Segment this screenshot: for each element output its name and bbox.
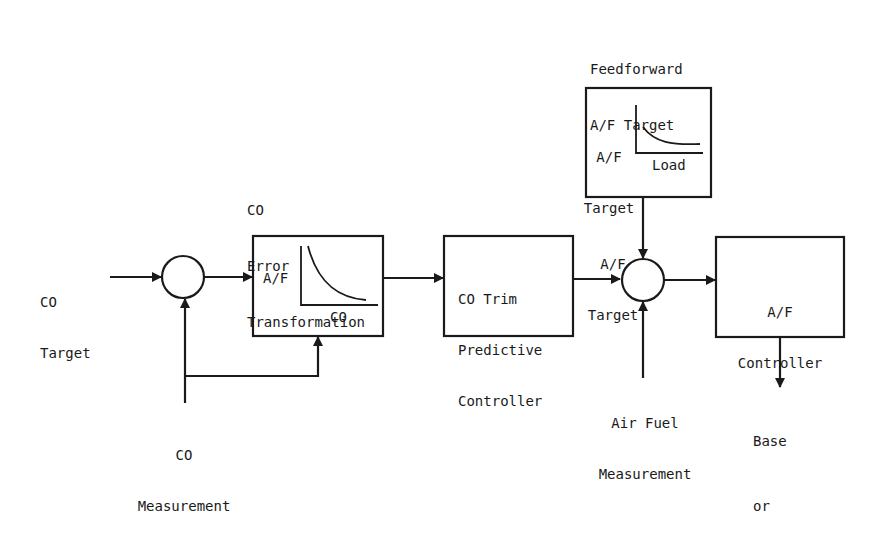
trim-line1: CO Trim bbox=[458, 291, 542, 308]
output-line2: or bbox=[753, 496, 795, 518]
error-transformation-title: CO Error Transformation bbox=[247, 168, 365, 348]
afc-line2: Controller bbox=[716, 355, 844, 372]
co-target-line1: CO bbox=[40, 294, 91, 311]
output-label: Base or Swing Fuel DDC Loops bbox=[753, 388, 795, 537]
trim-line3: Controller bbox=[458, 393, 542, 410]
co-measurement-label: CO Measurement bbox=[128, 413, 240, 532]
output-line1: Base bbox=[753, 431, 795, 453]
co-measurement-line2: Measurement bbox=[128, 498, 240, 515]
error-box-xaxis-label: CO bbox=[330, 309, 347, 326]
co-trim-controller-label: CO Trim Predictive Controller bbox=[458, 257, 542, 427]
co-summing-junction bbox=[162, 256, 204, 298]
ff-yaxis-line1: A/F bbox=[578, 149, 640, 166]
error-title-line3: Transformation bbox=[247, 314, 365, 331]
error-title-line1: CO bbox=[247, 202, 365, 219]
ff-box-xaxis-label: Load bbox=[652, 157, 686, 174]
af-controller-label: A/F Controller bbox=[716, 270, 844, 389]
error-box-yaxis-label: A/F bbox=[263, 270, 288, 287]
trim-line2: Predictive bbox=[458, 342, 542, 359]
af-target-line1: A/F bbox=[585, 256, 641, 273]
ff-box-yaxis-label: A/F Target bbox=[578, 115, 640, 234]
co-target-line2: Target bbox=[40, 345, 91, 362]
afm-line1: Air Fuel bbox=[582, 415, 708, 432]
ff-title-line1: Feedforward bbox=[590, 61, 683, 78]
co-target-label: CO Target bbox=[40, 260, 91, 379]
co-measurement-line1: CO bbox=[128, 447, 240, 464]
afm-line2: Measurement bbox=[582, 466, 708, 483]
af-target-line2: Target bbox=[585, 307, 641, 324]
af-target-input-label: A/F Target bbox=[585, 222, 641, 341]
ff-yaxis-line2: Target bbox=[578, 200, 640, 217]
afc-line1: A/F bbox=[716, 304, 844, 321]
air-fuel-measurement-label: Air Fuel Measurement bbox=[582, 381, 708, 500]
